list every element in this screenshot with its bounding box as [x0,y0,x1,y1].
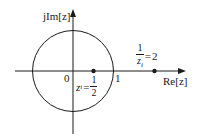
zi-numerator: 1 [90,75,97,86]
zi-fraction: 1 2 [90,75,97,98]
pole-point-zi [91,69,95,73]
z-plane-diagram: jIm[z] Re[z] 0 1 zi = 1 2 1 zi = 2 [0,0,199,137]
real-axis-label: Re[z] [163,76,187,87]
inverse-zi-numerator: 1 [136,43,143,54]
inverse-zi-value: 2 [152,50,158,62]
inverse-zi-label: 1 zi = 2 [136,43,158,69]
z-plane-graphic [0,0,199,137]
zi-denominator: 2 [90,86,97,98]
zi-eq: = [83,81,89,93]
zi-label: zi = 1 2 [76,75,97,98]
imag-axis-label: jIm[z] [43,11,70,22]
inverse-zi-den-sub: i [141,61,143,69]
unit-tick-label: 1 [115,73,121,84]
real-axis-arrow-icon [178,68,186,74]
zi-sub: i [80,83,82,91]
imag-axis-arrow-icon [70,9,76,17]
pole-point-inverse-zi [152,69,156,73]
imag-axis-label-text: jIm[z] [43,10,70,22]
real-axis-label-text: Re[z] [163,75,187,87]
inverse-zi-eq: = [145,50,151,62]
inverse-zi-fraction: 1 zi [136,43,144,69]
inverse-zi-denominator: zi [136,54,144,69]
origin-label: 0 [64,73,70,84]
